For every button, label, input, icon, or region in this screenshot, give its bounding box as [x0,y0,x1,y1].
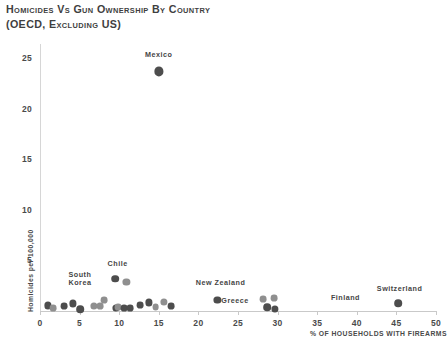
point-label: Greece [221,297,248,306]
x-tick-label: 45 [385,318,407,328]
y-axis-title: Homicides per 100,000 [27,229,34,312]
data-point[interactable] [97,303,104,310]
y-tick-label: 5 [10,255,32,265]
point-label: New Zealand [196,279,245,288]
x-axis-title: % of households with firearms [310,330,447,337]
data-point[interactable] [123,278,130,285]
data-point[interactable] [127,305,134,312]
data-point[interactable] [50,305,57,312]
x-tick-label: 40 [346,318,368,328]
x-tick-label: 15 [148,318,170,328]
page-title: Homicides vs Gun Ownership by Country [6,2,313,17]
x-tick [317,311,318,315]
x-tick [436,311,437,315]
data-point[interactable] [394,300,402,308]
y-axis-line [40,44,41,312]
x-tick-label: 10 [108,318,130,328]
x-tick [396,311,397,315]
x-tick-label: 5 [69,318,91,328]
data-point[interactable] [136,302,143,309]
chart-title-block: Homicides vs Gun Ownership by Country (O… [6,2,336,32]
x-tick [159,311,160,315]
data-point[interactable] [152,304,159,311]
x-tick [198,311,199,315]
data-point[interactable] [271,294,278,301]
data-point[interactable] [70,300,77,307]
point-label: Chile [108,260,128,269]
x-tick-label: 20 [187,318,209,328]
point-label: Finland [331,294,360,303]
data-point[interactable] [264,304,272,312]
data-point[interactable] [77,306,85,314]
y-tick-label: 15 [10,154,32,164]
x-tick [238,311,239,315]
y-tick-label: 10 [10,205,32,215]
x-tick [119,311,120,315]
x-tick-label: 25 [227,318,249,328]
x-tick [40,311,41,315]
data-point[interactable] [160,298,167,305]
data-point[interactable] [101,296,108,303]
point-label: Switzerland [377,285,422,294]
y-tick-label: 20 [10,104,32,114]
data-point[interactable] [260,295,267,302]
x-tick-label: 50 [425,318,447,328]
point-label: South Korea [69,271,92,288]
chart-subtitle: (OECD, excluding US) [6,17,313,32]
x-tick-label: 30 [267,318,289,328]
x-tick-label: 0 [29,318,51,328]
data-point[interactable] [154,67,163,76]
data-point[interactable] [214,296,221,303]
data-point[interactable] [60,303,67,310]
x-tick [278,311,279,315]
data-point[interactable] [111,275,119,283]
x-tick [357,311,358,315]
point-label: Mexico [145,51,172,60]
x-tick-label: 35 [306,318,328,328]
data-point[interactable] [168,303,175,310]
plot-area: Homicides per 100,000 051015202530354045… [40,44,436,312]
y-tick-label: 25 [10,53,32,63]
